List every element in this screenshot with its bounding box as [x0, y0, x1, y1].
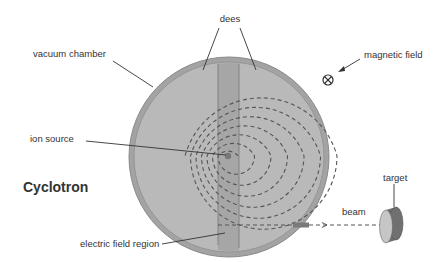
cyclotron-diagram: dees vacuum chamber magnetic field ion s… [0, 0, 445, 262]
beam-exit-port [293, 223, 309, 228]
diagram-title: Cyclotron [23, 179, 88, 195]
label-ion-source: ion source [30, 133, 74, 144]
label-magnetic-field: magnetic field [364, 49, 423, 60]
vacuum-chamber-leader [113, 61, 153, 87]
target [380, 207, 404, 243]
label-dees: dees [220, 13, 241, 24]
label-target: target [383, 172, 408, 183]
label-electric-field-region: electric field region [80, 238, 159, 249]
magnetic-field-icon [323, 75, 333, 85]
magnetic-field-arrowhead-icon [338, 66, 345, 72]
label-beam: beam [342, 206, 366, 217]
label-vacuum-chamber: vacuum chamber [33, 48, 106, 59]
ion-source [225, 153, 231, 159]
